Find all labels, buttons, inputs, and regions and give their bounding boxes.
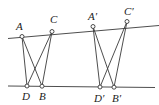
point-labels: ACDBA′C′D′B′: [15, 5, 134, 104]
point-d: [25, 84, 29, 88]
label-a: A: [15, 20, 23, 32]
label-c: C: [50, 13, 58, 25]
point-b2: [112, 85, 116, 89]
diagram-canvas: ACDBA′C′D′B′: [0, 0, 159, 105]
connecting-segments: [22, 22, 127, 88]
label-b: B: [39, 90, 46, 102]
label-d: D: [21, 90, 30, 102]
label-b2: B′: [112, 92, 122, 104]
geometry-diagram: ACDBA′C′D′B′: [0, 0, 159, 105]
point-a2: [91, 25, 95, 29]
segment-c2-b2: [114, 22, 127, 88]
segment-c-b: [42, 32, 52, 87]
points: [20, 20, 129, 90]
label-a2: A′: [87, 10, 98, 22]
label-c2: C′: [124, 5, 134, 17]
segment-c2-d2: [100, 22, 127, 88]
bottom-line: [8, 86, 155, 88]
point-b: [40, 84, 44, 88]
point-c: [50, 30, 54, 34]
point-c2: [125, 20, 129, 24]
top-line: [8, 26, 159, 39]
segment-a-b: [22, 37, 42, 87]
point-d2: [98, 85, 102, 89]
point-a: [20, 35, 24, 39]
label-d2: D′: [93, 92, 105, 104]
segment-a-d: [22, 37, 27, 87]
